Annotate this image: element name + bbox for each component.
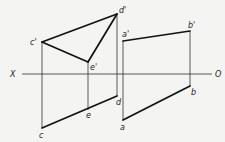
label-e: e [86, 111, 91, 120]
label-d-prime: d' [119, 6, 126, 15]
line-c-d [42, 96, 117, 128]
label-b: b [191, 88, 196, 97]
line-a-prime-b-prime [123, 31, 190, 41]
label-a-prime: a' [122, 30, 129, 39]
label-a: a [120, 123, 125, 132]
projection-diagram: X O c' d' e' a' b' c e d a b [0, 0, 225, 142]
line-e-prime-d-prime [88, 14, 117, 62]
line-c-prime-e-prime [42, 42, 88, 62]
label-b-prime: b' [188, 21, 195, 30]
axis-label-x: X [9, 70, 16, 79]
label-e-prime: e' [90, 63, 97, 72]
label-d: d [116, 98, 122, 107]
label-c: c [39, 131, 44, 140]
label-c-prime: c' [30, 38, 37, 47]
line-a-b [123, 86, 190, 120]
axis-label-o: O [215, 70, 221, 79]
line-c-prime-d-prime [42, 14, 117, 42]
